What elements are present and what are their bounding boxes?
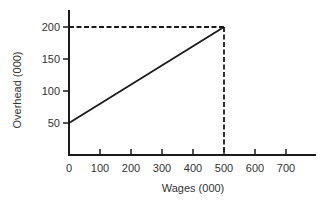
axes (68, 10, 316, 156)
line-chart: 010020030040050060070050100150200 Wages … (0, 0, 327, 205)
x-tick-label: 700 (277, 162, 295, 174)
x-tick-label: 300 (153, 162, 171, 174)
x-tick-label: 500 (215, 162, 233, 174)
x-tick-label: 0 (66, 162, 72, 174)
x-tick-label: 100 (91, 162, 109, 174)
y-axis-title: Overhead (000) (11, 51, 23, 128)
x-tick-label: 200 (122, 162, 140, 174)
x-tick-label: 400 (184, 162, 202, 174)
x-axis-title: Wages (000) (162, 182, 225, 194)
ticks: 010020030040050060070050100150200 (42, 21, 296, 174)
data-series (69, 27, 224, 123)
x-tick-label: 600 (246, 162, 264, 174)
y-tick-label: 100 (42, 85, 60, 97)
reference-lines (69, 27, 224, 155)
y-tick-label: 50 (48, 117, 60, 129)
y-tick-label: 150 (42, 53, 60, 65)
y-tick-label: 200 (42, 21, 60, 33)
series-line (69, 27, 224, 123)
